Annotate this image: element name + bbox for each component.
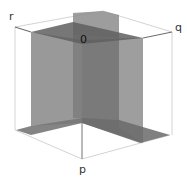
- axis-label-p: p: [79, 164, 86, 175]
- axis-label-r: r: [9, 11, 14, 22]
- plane-back-center: [73, 35, 119, 120]
- axis-r-line: [15, 27, 31, 32]
- axis-q-line: [143, 32, 172, 38]
- origin-label: 0: [80, 34, 87, 45]
- cube-planes-figure: [0, 0, 187, 183]
- diagram-canvas: r q p 0: [0, 0, 187, 183]
- axis-label-q: q: [175, 22, 182, 33]
